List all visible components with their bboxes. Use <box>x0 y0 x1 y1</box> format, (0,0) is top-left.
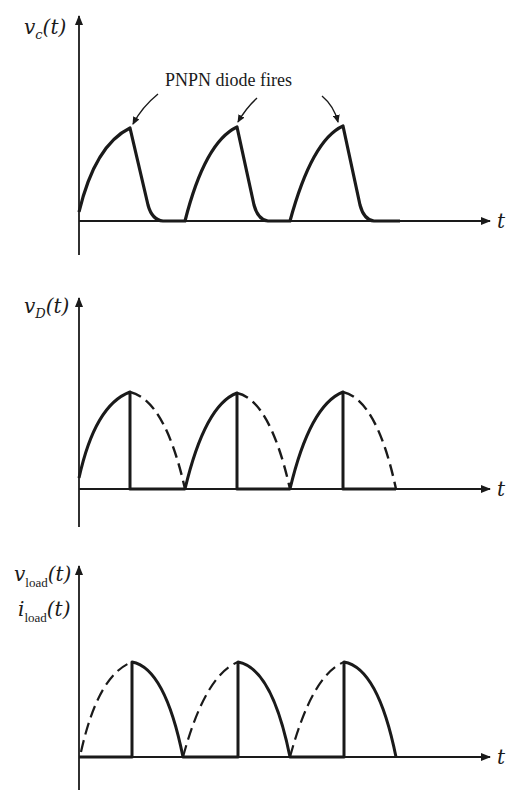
vc-waveform <box>79 126 400 221</box>
annotation-arrow-1 <box>133 94 158 124</box>
load-x-label: t <box>497 745 506 769</box>
load-dashed <box>81 662 344 757</box>
annotation-arrow-2 <box>238 98 257 122</box>
plot-vD: vD(t) t <box>24 294 506 527</box>
waveform-diagram: vc(t) t PNPN diode fires vD(t) t vload(t… <box>0 0 526 805</box>
vD-solid <box>79 392 396 489</box>
vD-y-label: vD(t) <box>24 294 69 321</box>
iload-y-label: iload(t) <box>18 597 70 625</box>
vD-x-label: t <box>497 477 506 501</box>
vD-dashed <box>130 392 396 489</box>
vc-x-label: t <box>497 209 506 233</box>
vload-y-label: vload(t) <box>14 562 71 590</box>
plot-load: vload(t) iload(t) t <box>14 562 506 790</box>
annotation-arrow-3 <box>322 96 338 122</box>
vc-y-label: vc(t) <box>24 15 66 42</box>
load-solid <box>79 662 396 757</box>
pnpn-annotation: PNPN diode fires <box>165 70 292 90</box>
plot-vc: vc(t) t PNPN diode fires <box>24 15 506 255</box>
